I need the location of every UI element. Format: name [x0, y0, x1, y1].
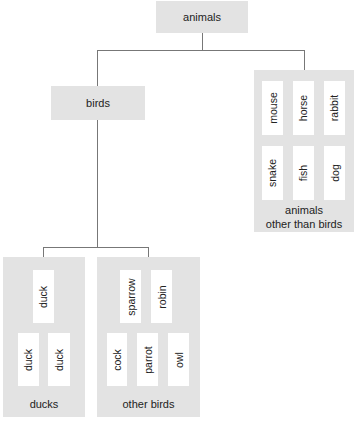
card-rabbit: rabbit — [324, 81, 345, 135]
node-birds-label: birds — [86, 97, 110, 109]
card-parrot: parrot — [137, 333, 158, 386]
group-other-birds: sparrow robin cock parrot owl other bird… — [97, 257, 200, 417]
card-duck-bottom-right: duck — [48, 333, 70, 386]
connector-birds-down — [97, 120, 98, 247]
group-other-animals-label: animals other than birds — [254, 203, 354, 231]
card-snake: snake — [262, 146, 283, 200]
connector-birds-branch — [43, 247, 149, 248]
node-animals-label: animals — [183, 11, 221, 23]
card-robin: robin — [151, 270, 172, 323]
card-dog: dog — [324, 146, 345, 200]
connector-root-down — [202, 33, 203, 50]
connector-to-other-birds — [148, 247, 149, 257]
card-horse: horse — [293, 81, 314, 135]
group-ducks-label: ducks — [3, 397, 85, 411]
connector-to-ducks — [43, 247, 44, 257]
card-cock: cock — [107, 333, 127, 386]
card-mouse: mouse — [262, 81, 283, 135]
group-ducks: duck duck duck ducks — [3, 257, 85, 417]
group-other-animals: mouse horse rabbit snake fish dog animal… — [254, 70, 354, 232]
card-duck-bottom-left: duck — [18, 333, 39, 386]
card-sparrow: sparrow — [120, 270, 141, 323]
node-animals: animals — [156, 1, 248, 33]
connector-root-branch — [97, 50, 305, 51]
card-duck-top: duck — [33, 270, 54, 323]
card-fish: fish — [293, 146, 314, 200]
connector-to-other-animals — [304, 50, 305, 70]
group-other-birds-label: other birds — [97, 397, 200, 411]
node-birds: birds — [51, 86, 145, 120]
connector-to-birds — [97, 50, 98, 86]
card-owl: owl — [168, 333, 189, 386]
